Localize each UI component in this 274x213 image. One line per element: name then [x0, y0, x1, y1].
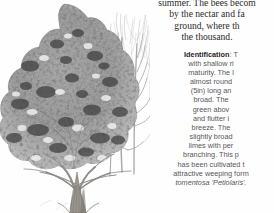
species-name: tomentosa 'Petiolaris'.: [176, 178, 247, 187]
identification-line-8: and flutter i: [152, 114, 274, 123]
identification-line-9: breeze. The: [152, 123, 274, 132]
identification-line-15: tomentosa 'Petiolaris'.: [152, 178, 274, 187]
serif-line-1: summer. The bees becom: [152, 0, 274, 8]
identification-line-3: maturity. The l: [152, 68, 274, 77]
identification-line-14: attractive weeping form: [152, 169, 274, 178]
identification-section: Identification: T with shallow ri maturi…: [152, 50, 274, 187]
identification-heading-separator: :: [230, 50, 232, 59]
identification-heading-line: Identification: T: [152, 50, 274, 59]
tree-illustration-svg: [0, 0, 150, 213]
identification-line-11: limes with per: [152, 141, 274, 150]
book-page: summer. The bees becom by the nectar and…: [0, 0, 274, 213]
identification-line-13: has been cultivated t: [152, 160, 274, 169]
identification-line-7: green abov: [152, 105, 274, 114]
identification-heading: Identification: [184, 50, 229, 59]
identification-line-6: broad. The: [152, 95, 274, 104]
text-column: summer. The bees becom by the nectar and…: [152, 0, 274, 213]
serif-line-2: by the nectar and fa: [152, 8, 274, 19]
serif-paragraph: summer. The bees becom by the nectar and…: [152, 0, 274, 43]
identification-line-4: almost round: [152, 77, 274, 86]
identification-line-1: T: [233, 50, 237, 59]
serif-line-3: ground, where th: [152, 20, 274, 31]
ground-shadow: [40, 200, 100, 210]
identification-line-2: with shallow ri: [152, 59, 274, 68]
identification-line-12: branching. This p: [152, 150, 274, 159]
identification-line-10: slightly broad: [152, 132, 274, 141]
tree-illustration: [0, 0, 150, 213]
serif-line-4: the thousand.: [152, 31, 274, 42]
foliage-crown: [0, 0, 150, 180]
identification-line-5: (5in) long an: [152, 86, 274, 95]
